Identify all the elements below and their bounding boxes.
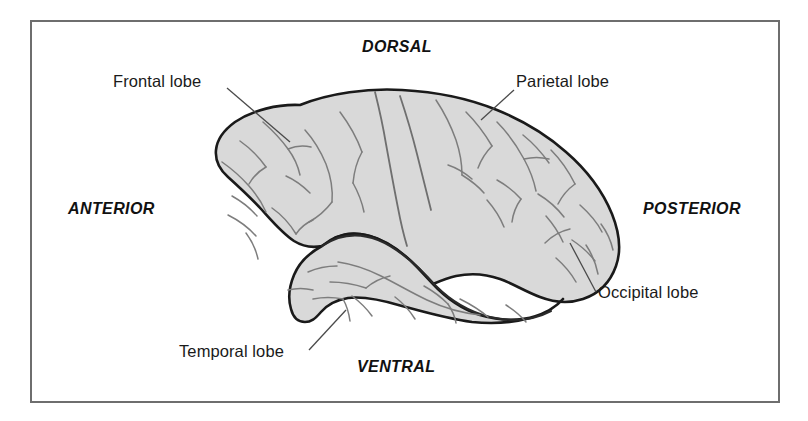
label-frontal-lobe: Frontal lobe xyxy=(113,72,201,91)
orientation-label-ventral: VENTRAL xyxy=(357,358,435,376)
figure-page: Frontal lobe Parietal lobe Occipital lob… xyxy=(0,0,808,421)
orientation-label-posterior: POSTERIOR xyxy=(643,200,741,218)
orientation-label-anterior: ANTERIOR xyxy=(68,200,155,218)
label-temporal-lobe: Temporal lobe xyxy=(179,342,284,361)
orientation-label-dorsal: DORSAL xyxy=(362,38,432,56)
label-parietal-lobe: Parietal lobe xyxy=(516,72,609,91)
label-occipital-lobe: Occipital lobe xyxy=(598,283,698,302)
